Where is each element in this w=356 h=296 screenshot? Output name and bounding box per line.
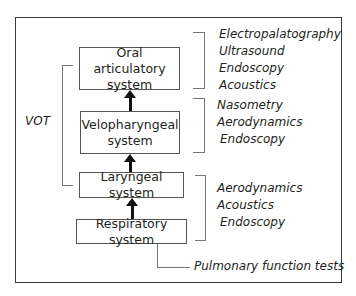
method-item: Aerodynamics (217, 180, 302, 197)
pulmonary-connector-horizontal (157, 267, 190, 268)
velo-methods-list: Nasometry Aerodynamics Endoscopy (217, 97, 302, 148)
laryngeal-methods-list: Aerodynamics Acoustics Endoscopy (217, 180, 302, 231)
pulmonary-function-tests-label: Pulmonary function tests (194, 259, 344, 273)
velo-methods-bracket (193, 98, 205, 153)
method-item: Nasometry (217, 97, 302, 114)
laryngeal-methods-bracket (195, 175, 206, 241)
method-item: Ultrasound (219, 43, 341, 60)
oral-articulatory-system-box: Oral articulatory system (79, 47, 180, 90)
method-item: Aerodynamics (217, 114, 302, 131)
method-item: Endoscopy (217, 131, 302, 148)
vot-label: VOT (25, 114, 50, 128)
laryngeal-box-label: Laryngeal system (80, 169, 183, 201)
vot-bracket (62, 65, 73, 186)
method-item: Acoustics (219, 77, 341, 94)
velo-box-line1: Velopharyngeal (81, 117, 178, 133)
method-item: Endoscopy (217, 214, 302, 231)
velo-box-line2: system (81, 133, 178, 149)
laryngeal-system-box: Laryngeal system (79, 172, 184, 198)
respiratory-system-box: Respiratory system (76, 219, 187, 244)
oral-methods-bracket (193, 32, 205, 89)
method-item: Electropalatography (219, 26, 341, 43)
pulmonary-connector-vertical (157, 244, 158, 268)
method-item: Acoustics (217, 197, 302, 214)
oral-box-line1: Oral articulatory (80, 45, 179, 77)
oral-methods-list: Electropalatography Ultrasound Endoscopy… (219, 26, 341, 94)
velopharyngeal-system-box: Velopharyngeal system (80, 111, 180, 154)
respiratory-box-label: Respiratory system (77, 216, 186, 248)
method-item: Endoscopy (219, 60, 341, 77)
